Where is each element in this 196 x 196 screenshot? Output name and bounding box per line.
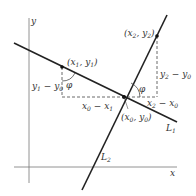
label-x2-minus-x0: x2 − x0 <box>147 98 178 109</box>
y-axis-label: y <box>30 16 37 26</box>
label-y2-minus-y0: y2 − y0 <box>159 69 191 80</box>
label-p1: (x1, y1) <box>67 57 98 68</box>
label-x0-minus-x1: x0 − x1 <box>82 101 113 112</box>
phi-label-left: φ <box>66 80 73 90</box>
label-L2: L2 <box>100 152 111 163</box>
phi-label-right: φ <box>139 84 146 94</box>
label-y1-minus-y0: y1 − y0 <box>31 81 63 92</box>
point-p1 <box>60 65 64 69</box>
point-p2 <box>155 34 159 38</box>
label-L1: L1 <box>165 123 176 134</box>
angle-between-lines-diagram: y x φ φ (x1, y1) (x2, y2) (x0, y0) y1 − … <box>0 0 196 196</box>
label-p0: (x0, y0) <box>121 112 152 123</box>
x-axis-label: x <box>170 168 175 178</box>
label-p2: (x2, y2) <box>124 28 155 39</box>
